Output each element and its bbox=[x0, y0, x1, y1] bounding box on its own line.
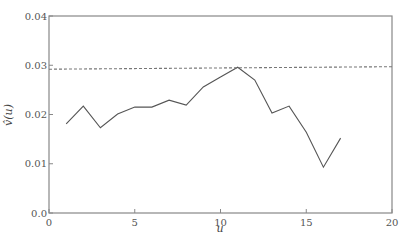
x-axis-label: u bbox=[216, 222, 223, 235]
reference-dashed-line bbox=[49, 67, 392, 70]
series-layer bbox=[49, 67, 392, 168]
x-tick-label: 15 bbox=[300, 217, 313, 228]
y-tick-label: 0.01 bbox=[25, 158, 47, 169]
axis-ticks: 051015200.00.010.020.030.04 bbox=[25, 11, 399, 229]
y-tick-label: 0.04 bbox=[25, 11, 47, 22]
plot-frame bbox=[49, 16, 392, 213]
x-tick-label: 0 bbox=[46, 217, 52, 228]
line-chart: 051015200.00.010.020.030.04 u v̂(u) bbox=[0, 0, 412, 247]
y-tick-label: 0.02 bbox=[25, 109, 47, 120]
x-tick-label: 5 bbox=[132, 217, 138, 228]
data-line bbox=[66, 67, 340, 167]
y-tick-label: 0.0 bbox=[31, 208, 47, 219]
x-tick-label: 20 bbox=[386, 217, 399, 228]
y-axis-label: v̂(u) bbox=[2, 104, 15, 126]
y-tick-label: 0.03 bbox=[25, 60, 47, 71]
plot-border bbox=[49, 16, 392, 213]
